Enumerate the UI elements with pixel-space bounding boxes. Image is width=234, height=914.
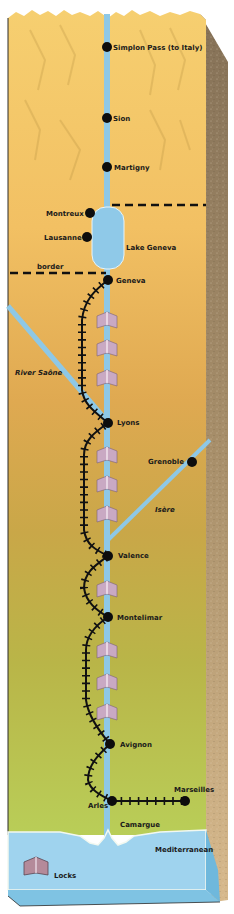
marseilles-dot <box>180 796 190 806</box>
label-isere: Isère <box>155 506 175 514</box>
label-camargue: Camargue <box>120 821 160 829</box>
label-grenoble: Grenoble <box>148 458 184 466</box>
simplon-dot <box>102 42 112 52</box>
lausanne-dot <box>82 232 92 242</box>
valence-dot <box>103 551 113 561</box>
label-martigny: Martigny <box>114 164 149 172</box>
geneva-dot <box>103 275 113 285</box>
label-simplon-pass: Simplon Pass (to Italy) <box>113 44 202 52</box>
label-lausanne: Lausanne <box>44 234 82 242</box>
legend-locks-label: Locks <box>54 872 76 880</box>
montelimar-dot <box>103 612 113 622</box>
sion-dot <box>102 113 112 123</box>
label-sion: Sion <box>113 115 130 123</box>
grenoble-dot <box>187 457 197 467</box>
rhone-map: Simplon Pass (to Italy) Sion Martigny Mo… <box>0 0 234 914</box>
label-river-saone: River Saône <box>15 369 62 377</box>
label-montreux: Montreux <box>46 210 84 218</box>
martigny-dot <box>102 162 112 172</box>
label-montelimar: Montelimar <box>117 614 162 622</box>
label-lyons: Lyons <box>117 419 140 427</box>
lyons-dot <box>103 418 113 428</box>
label-mediterranean: Mediterranean <box>155 846 213 854</box>
label-lake-geneva: Lake Geneva <box>126 244 176 252</box>
label-border: border <box>37 263 63 271</box>
label-avignon: Avignon <box>120 741 152 749</box>
label-valence: Valence <box>118 552 149 560</box>
label-arles: Arles <box>88 802 108 810</box>
label-geneva: Geneva <box>116 277 146 285</box>
label-marseilles: Marseilles <box>174 786 214 794</box>
arles-dot <box>107 796 117 806</box>
montreux-dot <box>85 208 95 218</box>
avignon-dot <box>105 739 115 749</box>
